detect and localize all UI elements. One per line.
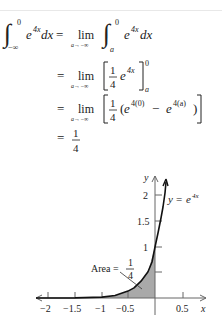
frac-num-3: 1	[110, 97, 116, 109]
lim-sub-2: a→−∞	[71, 83, 89, 89]
exponent-3: 4x	[127, 66, 135, 75]
lower-limit-a: a	[110, 45, 114, 54]
math-figure: ∫ 0 −∞ e 4x dx = lim a→−∞ ∫ 0 a e 4x dx …	[0, 0, 222, 319]
right-bracket-2	[139, 62, 143, 90]
area-label: Area =	[91, 263, 119, 274]
area-num: 1	[128, 257, 133, 268]
lim-2: lim	[78, 69, 95, 83]
equals-2: =	[57, 68, 64, 83]
x-tick-label: −1	[95, 303, 106, 314]
equals-3: =	[57, 101, 64, 116]
integrand-e-3: e	[120, 68, 126, 83]
lim-sub-1: a→−∞	[71, 42, 89, 48]
upper-limit: 0	[17, 18, 21, 27]
y-tick-label: 1.5	[137, 216, 150, 227]
function-label-eq: =	[176, 193, 182, 205]
result-num: 1	[73, 127, 79, 139]
exp-4-0: 4(0)	[131, 99, 145, 108]
eval-upper: 0	[145, 59, 149, 68]
integrand-e: e	[26, 27, 32, 42]
lim-sub-3: a→−∞	[71, 116, 89, 122]
exponent: 4x	[33, 25, 41, 34]
e-term-1: e	[124, 101, 130, 116]
function-label-exp: 4x	[192, 192, 200, 200]
x-tick-label: −0.5	[116, 303, 134, 314]
frac-den-3: 4	[110, 111, 116, 123]
lim-3: lim	[78, 102, 95, 116]
equals-4: =	[57, 130, 64, 145]
x-tick-label: −1.5	[63, 303, 81, 314]
upper-limit-2: 0	[115, 18, 119, 27]
lower-limit: −∞	[8, 43, 19, 52]
function-label-e: e	[186, 193, 191, 205]
integrand-e-2: e	[124, 27, 130, 42]
minus-sign: −	[152, 101, 159, 116]
x-tick-label: 0.5	[176, 303, 189, 314]
eval-lower: a	[145, 85, 149, 94]
left-bracket-3	[104, 95, 108, 123]
left-bracket-2	[104, 62, 108, 90]
equation-block: ∫ 0 −∞ e 4x dx = lim a→−∞ ∫ 0 a e 4x dx …	[2, 18, 201, 154]
e-term-2: e	[166, 101, 172, 116]
x-axis-label: x	[200, 303, 206, 314]
paren-close: )	[193, 101, 197, 116]
right-bracket-3	[197, 95, 201, 123]
area-den: 4	[128, 270, 133, 281]
x-tick-label: −2	[40, 303, 51, 314]
function-label-y: y	[167, 193, 173, 205]
result-den: 4	[73, 142, 79, 154]
frac-num-2: 1	[110, 64, 116, 76]
y-axis-label: y	[143, 172, 149, 183]
dx-2: dx	[140, 27, 153, 42]
y-tick-label: 1	[143, 242, 148, 253]
graph: −2 −1.5 −1 −0.5 0.5 x 1 1.5 2 y y = e 4x…	[36, 172, 206, 315]
exp-4-a: 4(a)	[173, 99, 186, 108]
frac-den-2: 4	[110, 78, 116, 90]
exponent-2: 4x	[131, 25, 139, 34]
y-tick-label: 2	[143, 190, 148, 201]
dx: dx	[41, 27, 54, 42]
equals-1: =	[56, 27, 63, 42]
lim-1: lim	[78, 28, 95, 42]
